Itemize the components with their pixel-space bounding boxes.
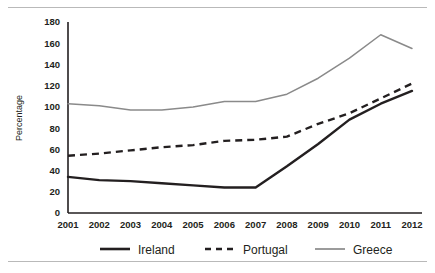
- series-line-portugal: [68, 84, 412, 156]
- y-axis-tick-labels: 020406080100120140160180: [44, 16, 60, 218]
- y-tick-label: 160: [44, 38, 60, 49]
- legend-item: Ireland: [100, 243, 175, 257]
- x-tick-label: 2007: [245, 219, 266, 230]
- x-tick-label: 2011: [370, 219, 391, 230]
- legend-label: Ireland: [138, 243, 175, 257]
- x-tick-label: 2002: [89, 219, 110, 230]
- chart-legend: IrelandPortugalGreece: [100, 243, 393, 257]
- y-tick-label: 80: [49, 123, 60, 134]
- x-tick-label: 2005: [183, 219, 205, 230]
- x-tick-label: 2012: [401, 219, 422, 230]
- series-line-greece: [68, 35, 412, 110]
- legend-item: Greece: [315, 243, 393, 257]
- legend-label: Portugal: [243, 243, 288, 257]
- y-tick-label: 120: [44, 80, 60, 91]
- x-tick-label: 2009: [308, 219, 329, 230]
- y-axis-title: Percentage: [14, 95, 24, 141]
- x-tick-label: 2010: [339, 219, 360, 230]
- legend-label: Greece: [353, 243, 393, 257]
- chart-plot-area: Percentage 020406080100120140160180 2001…: [0, 0, 435, 273]
- line-chart: Percentage 020406080100120140160180 2001…: [0, 0, 435, 273]
- x-tick-label: 2003: [120, 219, 141, 230]
- y-tick-label: 140: [44, 59, 60, 70]
- x-tick-label: 2006: [214, 219, 235, 230]
- y-tick-label: 60: [49, 144, 60, 155]
- y-tick-label: 0: [55, 207, 60, 218]
- figure-container: Percentage 020406080100120140160180 2001…: [0, 0, 435, 273]
- y-tick-label: 100: [44, 101, 60, 112]
- y-tick-label: 40: [49, 165, 60, 176]
- legend-item: Portugal: [205, 243, 288, 257]
- x-tick-label: 2004: [151, 219, 173, 230]
- x-tick-label: 2001: [57, 219, 79, 230]
- x-axis-tick-labels: 2001200220032004200520062007200820092010…: [57, 219, 422, 230]
- x-tick-label: 2008: [276, 219, 297, 230]
- y-tick-label: 180: [44, 16, 60, 27]
- y-tick-label: 20: [49, 186, 60, 197]
